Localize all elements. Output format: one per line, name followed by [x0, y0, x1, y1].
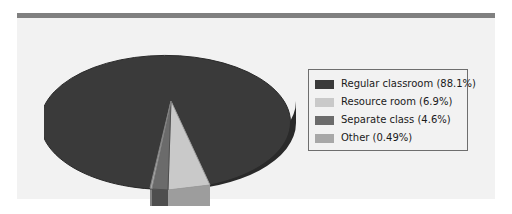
- slice-side-other: [150, 188, 152, 206]
- legend-swatch-icon: [315, 134, 334, 143]
- legend-item-other[interactable]: Other (0.49%): [315, 129, 467, 147]
- legend-label: Resource room (6.9%): [341, 96, 452, 108]
- legend-item-resource-room[interactable]: Resource room (6.9%): [315, 93, 467, 111]
- legend-item-regular-classroom[interactable]: Regular classroom (88.1%): [315, 75, 467, 93]
- legend-label: Separate class (4.6%): [341, 114, 451, 126]
- chart-legend: Regular classroom (88.1%) Resource room …: [308, 69, 468, 151]
- legend-swatch-icon: [315, 80, 334, 89]
- legend-label: Regular classroom (88.1%): [341, 78, 476, 90]
- pie-chart-3d: [44, 31, 298, 206]
- legend-item-separate-class[interactable]: Separate class (4.6%): [315, 111, 467, 129]
- top-rule-divider: [17, 13, 495, 18]
- legend-label: Other (0.49%): [341, 132, 412, 144]
- pie-svg: [44, 31, 298, 206]
- pie-chart-figure: Regular classroom (88.1%) Resource room …: [0, 0, 512, 214]
- slice-side-separate-class: [152, 189, 168, 206]
- legend-swatch-icon: [315, 116, 334, 125]
- legend-swatch-icon: [315, 98, 334, 107]
